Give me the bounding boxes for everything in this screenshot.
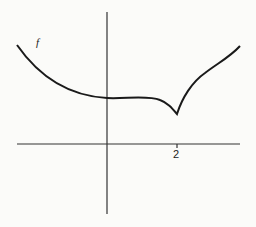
x-tick-label: 2 [173,148,179,160]
function-curve [17,45,240,114]
function-label: f [36,36,41,48]
graph: 2 f [0,0,256,227]
